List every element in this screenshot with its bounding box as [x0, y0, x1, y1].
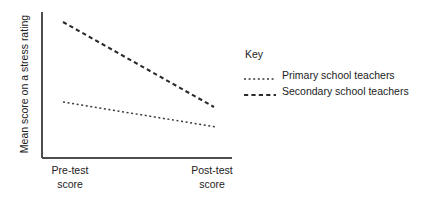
legend-title: Key	[245, 48, 430, 61]
stress-rating-line-chart: Mean score on a stress rating Pre-test s…	[0, 0, 432, 204]
x-tick-line-1: Post-test	[167, 163, 257, 177]
legend-swatch-dotted-icon	[244, 70, 276, 80]
y-axis-label: Mean score on a stress rating	[18, 4, 30, 164]
x-axis-tick-label-pre-test: Pre-test score	[25, 163, 115, 191]
x-tick-line-2: score	[167, 177, 257, 191]
axis-frame	[42, 12, 232, 158]
legend-swatch-dashed-icon	[244, 86, 276, 96]
series-lines	[63, 22, 216, 127]
chart-legend: Key Primary school teachers Secondary sc…	[244, 48, 430, 99]
legend-label: Secondary school teachers	[282, 85, 409, 98]
series-line-primary-school-teachers	[63, 102, 216, 127]
x-tick-line-2: score	[25, 177, 115, 191]
x-tick-line-1: Pre-test	[25, 163, 115, 177]
legend-item-primary-school-teachers: Primary school teachers	[244, 67, 430, 83]
legend-label: Primary school teachers	[282, 69, 395, 82]
x-axis-tick-label-post-test: Post-test score	[167, 163, 257, 191]
legend-item-secondary-school-teachers: Secondary school teachers	[244, 83, 430, 99]
series-line-secondary-school-teachers	[63, 22, 214, 107]
